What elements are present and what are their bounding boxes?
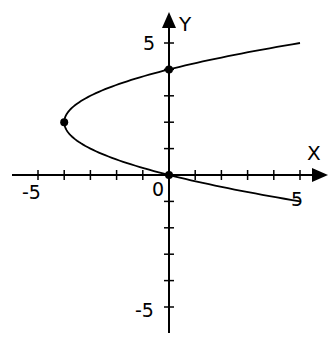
- x-axis-label: X: [307, 141, 321, 165]
- x-tick-label-pos5: 5: [291, 188, 303, 210]
- y-tick-label-neg5: -5: [135, 299, 154, 321]
- data-point: [165, 65, 173, 73]
- x-tick-label-neg5: -5: [22, 181, 41, 203]
- y-tick-label-pos5: 5: [143, 32, 155, 54]
- origin-label: 0: [152, 178, 164, 200]
- data-point: [60, 118, 68, 126]
- parabola-curve: [64, 43, 300, 201]
- marked-points: [60, 65, 173, 179]
- data-point: [165, 171, 173, 179]
- x-axis-arrow-icon: [312, 168, 328, 182]
- y-axis-label: Y: [178, 12, 192, 36]
- y-axis-arrow-icon: [162, 12, 176, 28]
- parabola-plot: X Y 0 -5 5 5 -5: [0, 0, 336, 343]
